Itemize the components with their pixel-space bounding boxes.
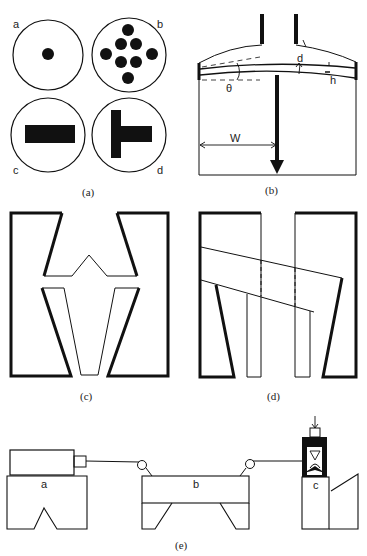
panel-e xyxy=(7,416,358,529)
caption-a: (a) xyxy=(82,186,95,199)
caption-e: (e) xyxy=(175,539,188,552)
panel-a xyxy=(11,18,166,172)
caption-d: (d) xyxy=(267,390,280,403)
label-c: c xyxy=(313,479,319,491)
horizontal-bar xyxy=(25,125,75,143)
figure-canvas: a b c d (a) d h θ W (b) xyxy=(0,0,367,556)
circle-label-b: b xyxy=(157,18,163,30)
circle-label-c: c xyxy=(13,164,19,176)
label-theta: θ xyxy=(226,82,232,94)
label-b: b xyxy=(193,478,199,490)
caption-c: (c) xyxy=(80,390,93,403)
label-d: d xyxy=(297,52,303,64)
panel-b xyxy=(199,14,356,175)
caption-b: (b) xyxy=(265,184,278,197)
dots-diamond xyxy=(100,24,158,84)
label-W: W xyxy=(230,132,241,144)
label-a: a xyxy=(41,478,48,490)
label-h: h xyxy=(330,74,336,86)
panel-d xyxy=(200,213,356,377)
load-arrow-icon xyxy=(270,160,284,174)
panel-c xyxy=(11,213,168,376)
circle-label-a: a xyxy=(13,18,20,30)
circle-label-d: d xyxy=(157,164,163,176)
motor-a xyxy=(10,450,74,475)
